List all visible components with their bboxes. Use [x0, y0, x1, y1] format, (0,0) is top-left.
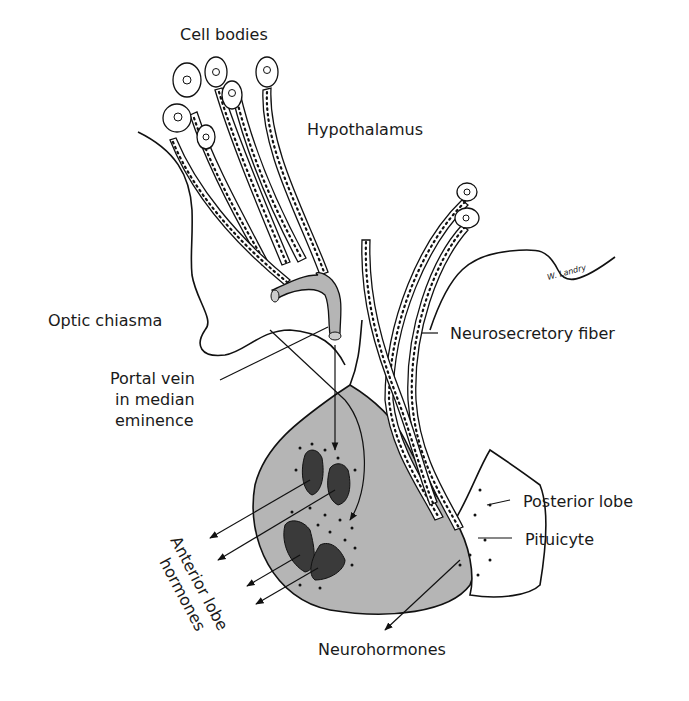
portal-vein-leader: [220, 327, 328, 380]
label-posterior-lobe: Posterior lobe: [523, 492, 633, 511]
label-portal-vein-3: eminence: [115, 411, 194, 430]
label-portal-vein-2: in median: [115, 390, 195, 409]
label-anterior-lobe-hormones: Anterior lobe hormones: [149, 533, 232, 643]
label-neurohormones: Neurohormones: [318, 640, 446, 659]
label-optic-chiasma: Optic chiasma: [48, 311, 162, 330]
posterior-brain-outline: [430, 250, 615, 330]
hypothalamus-pituitary-diagram: Cell bodies Hypothalamus Optic chiasma P…: [0, 0, 689, 701]
label-hypothalamus: Hypothalamus: [307, 120, 423, 139]
neurosecretory-fibers-anterior: [170, 88, 328, 285]
label-neurosecretory-fiber: Neurosecretory fiber: [450, 324, 615, 343]
label-pituicyte: Pituicyte: [525, 530, 594, 549]
label-portal-vein-1: Portal vein: [110, 369, 195, 388]
label-cell-bodies: Cell bodies: [180, 25, 268, 44]
